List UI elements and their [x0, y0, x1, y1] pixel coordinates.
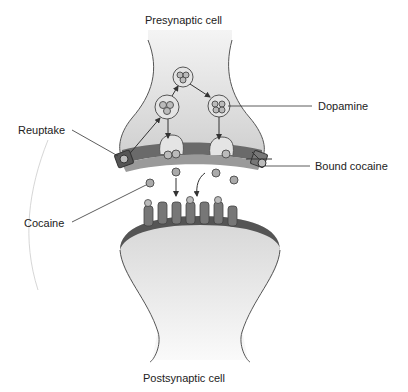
label-bound-cocaine: Bound cocaine [315, 160, 388, 172]
cleft-particles [146, 168, 238, 187]
vesicle-right [208, 95, 230, 117]
vesicle-fusing-right [210, 137, 234, 158]
receptors [144, 197, 237, 227]
synapse-diagram [0, 0, 408, 392]
cocaine-molecule [146, 179, 154, 187]
label-cocaine: Cocaine [24, 217, 64, 229]
vesicle-left [155, 95, 179, 119]
label-postsynaptic-cell: Postsynaptic cell [143, 372, 225, 384]
label-reuptake: Reuptake [18, 124, 65, 136]
label-dopamine: Dopamine [318, 100, 368, 112]
faint-arc [29, 140, 48, 290]
postsynaptic-cell [120, 197, 280, 363]
label-presynaptic-cell: Presynaptic cell [145, 14, 222, 26]
presynaptic-cell [120, 30, 265, 172]
